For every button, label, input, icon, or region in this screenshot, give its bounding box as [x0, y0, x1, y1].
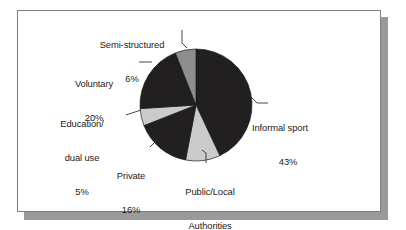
pie-label-private-value: 16% — [96, 204, 166, 215]
pie-label-private-name: Private — [96, 170, 166, 181]
pie-label-informal-sport-value: 43% — [252, 156, 324, 167]
pie-label-informal-sport: Informal sport 43% — [252, 100, 362, 190]
pie-label-public-local-name-1: Public/Local — [162, 186, 258, 197]
pie-label-public-local-name-2: Authorities — [162, 220, 258, 230]
pie-label-informal-sport-name: Informal sport — [252, 122, 362, 133]
pie-label-public-local: Public/Local Authorities 10% — [162, 164, 258, 230]
pie-label-education-name-1: Education/ — [40, 118, 124, 129]
pie-label-voluntary-name: Voluntary — [52, 78, 136, 89]
pie-label-private: Private 16% — [96, 148, 166, 230]
figure-stage: Semi-structured 6% Voluntary 20% Educati… — [0, 0, 406, 230]
pie-label-semi-structured-name: Semi-structured — [78, 39, 186, 50]
